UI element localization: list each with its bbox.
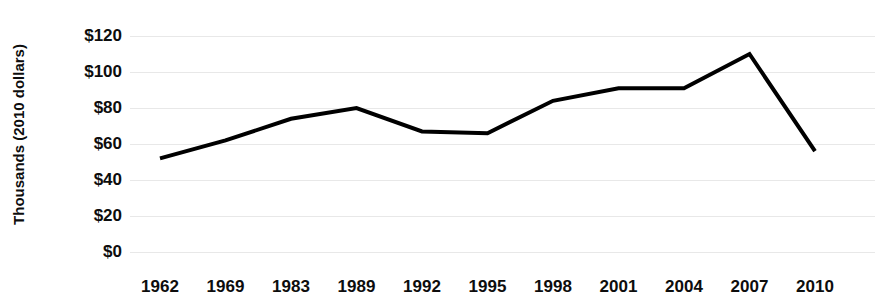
x-axis-tick-label: 1995 <box>469 277 507 297</box>
line-chart: Thousands (2010 dollars) $0$20$40$60$80$… <box>0 0 875 308</box>
x-axis-tick-label: 1962 <box>141 277 179 297</box>
y-axis-tick-label: $60 <box>94 134 122 154</box>
plot-area <box>130 0 875 268</box>
x-axis-tick-label: 1992 <box>403 277 441 297</box>
x-axis-tick-label: 2010 <box>796 277 834 297</box>
y-axis-title: Thousands (2010 dollars) <box>0 0 36 268</box>
y-axis-tick-label: $80 <box>94 98 122 118</box>
y-axis-tick-label: $20 <box>94 206 122 226</box>
series-polyline <box>160 54 815 158</box>
x-axis-tick-label: 1998 <box>534 277 572 297</box>
y-axis-title-label: Thousands (2010 dollars) <box>10 44 27 225</box>
x-axis-tick-label: 2004 <box>665 277 703 297</box>
y-axis-tick-label: $40 <box>94 170 122 190</box>
x-axis-tick-label: 1989 <box>338 277 376 297</box>
y-axis-tick-labels: $0$20$40$60$80$100$120 <box>36 0 130 268</box>
y-axis-tick-label: $120 <box>84 26 122 46</box>
x-axis-tick-labels: 1962196919831989199219951998200120042007… <box>130 268 875 308</box>
y-axis-tick-label: $100 <box>84 62 122 82</box>
data-series-line <box>130 0 875 268</box>
x-axis-tick-label: 2007 <box>731 277 769 297</box>
x-axis-tick-label: 1983 <box>272 277 310 297</box>
x-axis-tick-label: 2001 <box>600 277 638 297</box>
x-axis-tick-label: 1969 <box>207 277 245 297</box>
y-axis-tick-label: $0 <box>103 242 122 262</box>
